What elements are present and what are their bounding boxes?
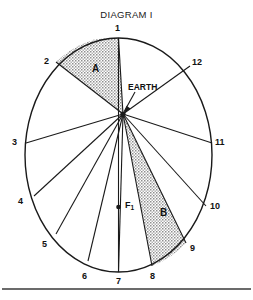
tick-label-1: 1 xyxy=(115,24,120,33)
radius-vector-7 xyxy=(119,114,124,272)
earth-label: EARTH xyxy=(128,83,157,92)
tick-label-12: 12 xyxy=(192,58,202,67)
tick-label-10: 10 xyxy=(210,202,220,211)
radius-vector-3 xyxy=(26,114,123,143)
orbit-diagram-svg xyxy=(0,0,253,300)
tick-label-3: 3 xyxy=(12,138,17,147)
focus-label-subscript: 1 xyxy=(131,204,135,211)
radius-vector-5 xyxy=(56,114,123,234)
sector-label-a: A xyxy=(92,64,99,74)
sector-label-b: B xyxy=(160,208,167,218)
tick-label-8: 8 xyxy=(150,272,155,281)
sector-a-shading xyxy=(56,38,123,114)
focus-f1-dot xyxy=(116,205,121,210)
tick-label-11: 11 xyxy=(215,138,225,147)
radius-vector-4 xyxy=(34,114,123,196)
sector-b-shading xyxy=(123,114,186,266)
tick-label-2: 2 xyxy=(44,57,49,66)
focus-label: F1 xyxy=(125,201,134,210)
focus-label-text: F xyxy=(125,200,131,210)
earth-center-dot xyxy=(120,111,125,116)
tick-label-6: 6 xyxy=(82,272,87,281)
tick-label-5: 5 xyxy=(42,240,47,249)
tick-label-4: 4 xyxy=(18,197,23,206)
tick-label-9: 9 xyxy=(190,244,195,253)
radius-vector-6 xyxy=(88,114,123,261)
diagram-figure: DIAGRAM I xyxy=(0,0,253,300)
tick-label-7: 7 xyxy=(116,277,121,286)
